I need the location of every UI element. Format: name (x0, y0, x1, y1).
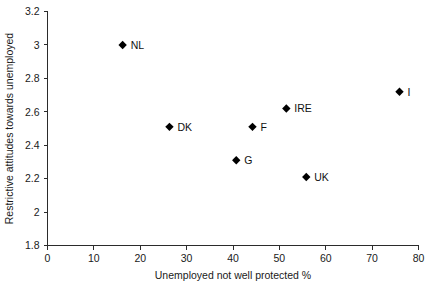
data-point-marker (165, 123, 173, 131)
data-point-marker (232, 156, 240, 164)
data-point-marker (395, 88, 403, 96)
x-tick-label: 30 (181, 252, 193, 264)
data-point-label: I (407, 86, 410, 98)
plot-canvas: 1.822.22.42.62.833.2 01020304050607080 N… (0, 0, 447, 288)
x-tick-label: 20 (134, 252, 146, 264)
data-point-marker (302, 173, 310, 181)
y-tick-label: 3 (34, 39, 40, 51)
y-tick-label: 2.8 (25, 72, 40, 84)
x-tick-label: 80 (413, 252, 425, 264)
data-point-marker (282, 104, 290, 112)
x-tick-label: 50 (274, 252, 286, 264)
x-tick-label: 70 (366, 252, 378, 264)
axis-titles: Unemployed not well protected %Restricti… (3, 33, 311, 281)
y-tick-label: 2.4 (25, 139, 40, 151)
data-point-label: F (260, 121, 266, 133)
data-point-marker (248, 123, 256, 131)
data-point-label: UK (314, 171, 329, 183)
scatter-chart: 1.822.22.42.62.833.2 01020304050607080 N… (0, 0, 447, 288)
y-tick-label: 3.2 (25, 5, 40, 17)
x-axis: 01020304050607080 (45, 246, 425, 264)
x-tick-label: 40 (227, 252, 239, 264)
y-tick-label: 1.8 (25, 239, 40, 251)
data-point-label: G (244, 154, 252, 166)
data-point-label: NL (131, 39, 145, 51)
data-points: NLDKGFIREUKI (118, 39, 410, 183)
y-axis-title: Restrictive attitudes towards unemployed (3, 33, 15, 225)
y-tick-label: 2.6 (25, 106, 40, 118)
data-point-marker (118, 41, 126, 49)
data-point-label: IRE (294, 102, 312, 114)
y-axis: 1.822.22.42.62.833.2 (25, 5, 48, 251)
y-tick-label: 2 (34, 206, 40, 218)
x-tick-label: 60 (320, 252, 332, 264)
x-tick-label: 0 (45, 252, 51, 264)
data-point-label: DK (177, 121, 192, 133)
x-tick-label: 10 (88, 252, 100, 264)
y-tick-label: 2.2 (25, 172, 40, 184)
x-axis-title: Unemployed not well protected % (155, 269, 311, 281)
